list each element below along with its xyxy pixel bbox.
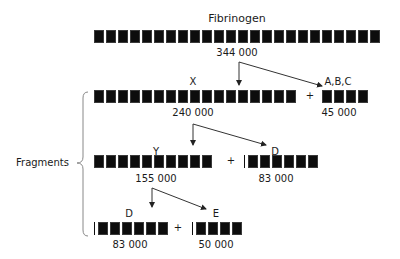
bar-segment xyxy=(334,30,344,43)
bar-segment xyxy=(134,222,144,235)
bar-segment xyxy=(238,90,248,103)
bar-segment xyxy=(94,90,104,103)
fragment-abc-label: A,B,C xyxy=(324,76,351,88)
bar-segment xyxy=(250,30,260,43)
bar-segment xyxy=(196,222,206,235)
bar-segment xyxy=(142,30,152,43)
fragment-d-mass: 83 000 xyxy=(113,239,148,251)
fragments-brace xyxy=(77,92,88,236)
fragment-d-bar xyxy=(244,155,318,168)
arrow-x-to-d xyxy=(193,124,266,145)
fragment-x-bar xyxy=(94,90,296,103)
bar-segment xyxy=(154,90,164,103)
bar-segment xyxy=(166,155,176,168)
fibrinogen-bar xyxy=(94,30,380,43)
bar-segment xyxy=(166,90,176,103)
bar-segment xyxy=(130,90,140,103)
fragments-label: Fragments xyxy=(16,157,69,168)
bar-segment xyxy=(178,90,188,103)
bar-segment xyxy=(202,90,212,103)
bar-segment xyxy=(106,90,116,103)
bar-segment xyxy=(262,30,272,43)
bar-segment xyxy=(154,30,164,43)
bar-segment xyxy=(238,30,248,43)
bar-segment xyxy=(118,30,128,43)
bar-segment xyxy=(142,155,152,168)
bar-segment xyxy=(122,222,132,235)
bar-segment xyxy=(250,90,260,103)
bar-segment xyxy=(94,30,104,43)
bar-segment xyxy=(260,155,270,168)
fragment-d-label: D xyxy=(125,208,133,220)
bar-segment xyxy=(130,155,140,168)
bar-segment xyxy=(214,30,224,43)
bar-segment xyxy=(178,155,188,168)
fragment-d-mass: 83 000 xyxy=(259,173,294,185)
bar-segment xyxy=(284,155,294,168)
bar-segment xyxy=(208,222,218,235)
bar-segment xyxy=(178,30,188,43)
bar-segment xyxy=(346,90,356,103)
fragment-abc-bar xyxy=(322,90,368,103)
bar-segment xyxy=(308,155,318,168)
arrow-fibrinogen-to-abc xyxy=(239,62,322,86)
plus-sign: + xyxy=(306,90,314,102)
bar-segment xyxy=(106,30,116,43)
bar-segment xyxy=(296,155,306,168)
bar-segment xyxy=(310,30,320,43)
bar-segment xyxy=(272,155,282,168)
bar-segment xyxy=(98,222,108,235)
bar-segment xyxy=(248,155,258,168)
fragment-e-mass: 50 000 xyxy=(199,239,234,251)
bar-segment xyxy=(298,30,308,43)
bar-segment xyxy=(322,90,332,103)
bar-segment xyxy=(118,90,128,103)
bar-segment xyxy=(110,222,120,235)
bar-segment xyxy=(286,30,296,43)
bar-segment xyxy=(142,90,152,103)
plus-sign: + xyxy=(227,155,235,167)
bar-segment xyxy=(358,90,368,103)
fragment-x-label: X xyxy=(190,76,197,88)
bar-segment xyxy=(106,155,116,168)
bar-segment xyxy=(190,30,200,43)
fragment-d-bar xyxy=(94,222,168,235)
fragment-abc-mass: 45 000 xyxy=(322,107,357,119)
fragment-x-mass: 240 000 xyxy=(172,107,213,119)
bar-segment xyxy=(130,30,140,43)
fibrinogen-label: Fibrinogen xyxy=(208,13,266,25)
bar-segment xyxy=(214,90,224,103)
bar-segment xyxy=(220,222,230,235)
bar-segment xyxy=(190,155,200,168)
bar-segment xyxy=(232,222,242,235)
bar-segment xyxy=(158,222,168,235)
bar-segment xyxy=(202,155,212,168)
bar-segment xyxy=(202,30,212,43)
bar-segment xyxy=(370,30,380,43)
bar-segment xyxy=(274,90,284,103)
arrow-y-to-e xyxy=(152,188,206,209)
bar-segment xyxy=(94,155,104,168)
bar-segment xyxy=(154,155,164,168)
bar-segment xyxy=(334,90,344,103)
fragment-e-label: E xyxy=(213,208,219,220)
plus-sign: + xyxy=(174,222,182,234)
bar-segment xyxy=(190,90,200,103)
bar-segment xyxy=(146,222,156,235)
bar-segment xyxy=(226,30,236,43)
bar-segment xyxy=(358,30,368,43)
bar-segment xyxy=(226,90,236,103)
bar-segment xyxy=(322,30,332,43)
fragment-y-mass: 155 000 xyxy=(135,173,176,185)
bar-segment xyxy=(274,30,284,43)
fragment-y-bar xyxy=(94,155,212,168)
bar-segment xyxy=(286,90,296,103)
fibrinogen-mass: 344 000 xyxy=(216,47,257,59)
bar-segment xyxy=(262,90,272,103)
bar-segment xyxy=(346,30,356,43)
bar-segment xyxy=(118,155,128,168)
fragment-e-bar xyxy=(192,222,242,235)
bar-segment xyxy=(166,30,176,43)
